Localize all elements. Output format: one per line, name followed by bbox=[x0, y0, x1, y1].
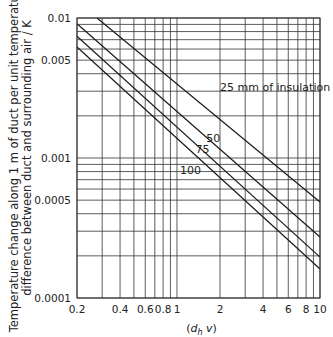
x-tick-label: 0.8 bbox=[155, 303, 172, 315]
x-tick-label: 0.4 bbox=[112, 303, 129, 315]
y-tick-label: 0.001 bbox=[41, 152, 71, 164]
x-tick-label: 0.2 bbox=[69, 303, 86, 315]
chart-canvas: 25 mm of insulation5075100 0.20.40.60.81… bbox=[0, 0, 333, 337]
series-label: 25 mm of insulation bbox=[220, 81, 330, 94]
x-tick-label: 4 bbox=[260, 303, 267, 315]
y-tick-label: 0.005 bbox=[41, 54, 71, 66]
y-tick-label: 0.0001 bbox=[34, 292, 71, 304]
x-axis-label: (dh v) bbox=[186, 322, 217, 337]
x-tick-label: 1 bbox=[174, 303, 181, 315]
x-tick-label: 10 bbox=[313, 303, 326, 315]
y-tick-label: 0.01 bbox=[48, 12, 71, 24]
series-label: 100 bbox=[180, 164, 201, 177]
y-tick-label: 0.0005 bbox=[34, 194, 71, 206]
series-line bbox=[97, 18, 320, 202]
x-axis-ticks: 0.20.40.60.81246810 bbox=[69, 303, 327, 315]
x-tick-label: 6 bbox=[285, 303, 292, 315]
y-axis-ticks: 0.00010.00050.0010.0050.01 bbox=[34, 12, 71, 304]
x-tick-label: 2 bbox=[217, 303, 224, 315]
x-tick-label: 0.6 bbox=[137, 303, 154, 315]
series-label: 75 bbox=[196, 143, 210, 156]
series-line bbox=[77, 24, 320, 237]
x-tick-label: 8 bbox=[303, 303, 310, 315]
